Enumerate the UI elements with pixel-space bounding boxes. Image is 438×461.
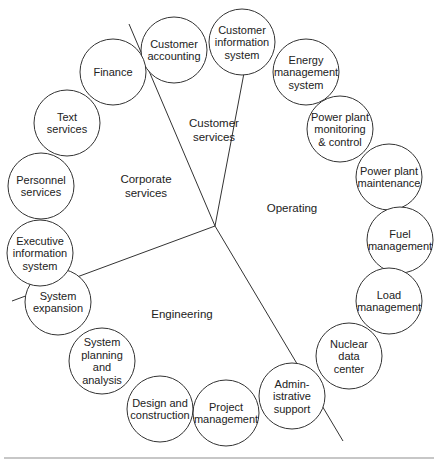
- node-power-plant-monitoring-and-control: Power plantmonitoring& control: [307, 96, 373, 162]
- node-power-plant-maintenance: Power plantmaintenance: [356, 144, 422, 210]
- node-load-management: Loadmanagement: [356, 268, 422, 334]
- node-label: Admin-istrativesupport: [273, 378, 311, 415]
- sector-label-corporate-services: Corporateservices: [120, 173, 171, 199]
- node-project-management: Projectmanagement: [193, 380, 259, 446]
- node-customer-information-system: Customerinformationsystem: [209, 9, 275, 75]
- application-portfolio-diagram: CorporateservicesCustomerservicesOperati…: [0, 0, 438, 461]
- node-finance: Finance: [80, 39, 146, 105]
- node-text-services: Textservices: [34, 90, 100, 156]
- sector-label-operating: Operating: [267, 202, 318, 214]
- node-label: Finance: [93, 66, 132, 78]
- application-nodes: CustomeraccountingCustomerinformationsys…: [7, 9, 433, 446]
- node-customer-accounting: Customeraccounting: [141, 17, 207, 83]
- node-label: Personnelservices: [16, 174, 66, 199]
- node-label: Design andconstruction: [130, 397, 189, 422]
- node-fuel-management: Fuelmanagement: [367, 207, 433, 273]
- sector-label-customer-services: Customerservices: [189, 117, 239, 143]
- node-energy-management-system: Energymanagementsystem: [273, 39, 339, 105]
- node-label: Systemexpansion: [33, 290, 83, 315]
- node-label: Customeraccounting: [147, 38, 200, 63]
- sector-label-engineering: Engineering: [151, 308, 212, 320]
- node-label: Power plantmonitoring& control: [311, 111, 369, 148]
- node-administrative-support: Admin-istrativesupport: [259, 363, 325, 429]
- node-label: Power plantmaintenance: [358, 165, 421, 190]
- node-design-and-construction: Design andconstruction: [127, 376, 193, 442]
- node-executive-information-system: Executiveinformationsystem: [7, 220, 73, 286]
- sector-labels: CorporateservicesCustomerservicesOperati…: [120, 117, 317, 320]
- node-system-planning-and-analysis: Systemplanningandanalysis: [69, 328, 135, 394]
- node-personnel-services: Personnelservices: [8, 153, 74, 219]
- node-nuclear-data-center: Nucleardatacenter: [316, 323, 382, 389]
